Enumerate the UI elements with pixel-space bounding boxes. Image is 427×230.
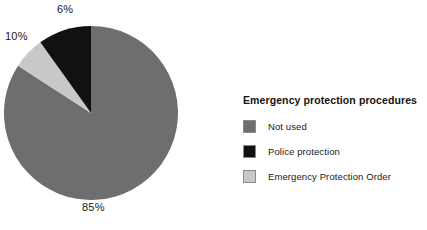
pie-data-label-emergency-protection-order: 6%	[57, 3, 73, 15]
pie-slices	[4, 26, 178, 200]
legend-item-emergency-protection-order[interactable]: Emergency Protection Order	[243, 169, 427, 183]
legend-item-police-protection[interactable]: Police protection	[243, 144, 427, 158]
legend-swatch-police-protection	[243, 145, 256, 158]
pie-data-label-police-protection: 10%	[5, 30, 28, 42]
pie-data-label-not-used: 85%	[82, 201, 105, 213]
legend-label-police-protection: Police protection	[268, 146, 340, 157]
legend-swatch-not-used	[243, 120, 256, 133]
chart-legend: Emergency protection procedures Not used…	[243, 94, 427, 194]
pie-chart-figure: 85% 10% 6% Emergency protection procedur…	[0, 0, 427, 230]
legend-label-not-used: Not used	[268, 121, 307, 132]
pie-plot-area: 85% 10% 6%	[0, 0, 200, 230]
legend-label-emergency-protection-order: Emergency Protection Order	[268, 171, 391, 182]
pie-svg	[0, 0, 200, 230]
legend-swatch-emergency-protection-order	[243, 170, 256, 183]
legend-item-not-used[interactable]: Not used	[243, 119, 427, 133]
legend-title: Emergency protection procedures	[243, 94, 427, 106]
